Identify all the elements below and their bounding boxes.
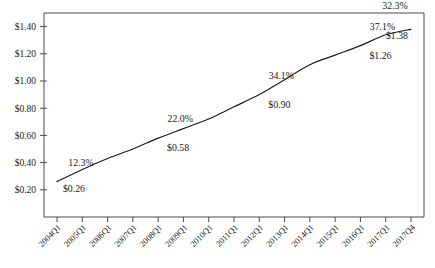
x-axis-tick-label: 2017Q1: [365, 222, 392, 249]
x-axis-tick-label: 2009Q1: [163, 222, 190, 249]
annotation-value: $0.26: [63, 183, 85, 194]
line-chart: $1.40$1.20$1.00$0.80$0.60$0.40$0.20 2004…: [0, 0, 435, 268]
x-axis-tick-label: 2011Q1: [213, 222, 239, 248]
y-axis-labels: $1.40$1.20$1.00$0.80$0.60$0.40$0.20: [15, 22, 37, 195]
series-group: [57, 29, 411, 181]
y-axis-tick-label: $1.20: [15, 49, 37, 59]
plot-frame: [44, 13, 424, 217]
x-axis-tick-label: 2008Q1: [137, 222, 164, 249]
annotation-value: $1.38: [386, 30, 408, 41]
x-axis-tick-label: 2005Q1: [62, 222, 89, 249]
x-axis-tick-label: 2017Q4: [390, 222, 417, 249]
annotation-percent: 32.3%: [382, 0, 407, 11]
y-axis-tick-label: $0.80: [15, 104, 37, 114]
annotation-value: $1.26: [369, 50, 391, 61]
series-line-value: [57, 29, 411, 181]
y-axis-tick-label: $1.40: [15, 22, 37, 32]
annotation-value: $0.58: [167, 142, 189, 153]
x-axis-labels: 2004Q12005Q12006Q12007Q12008Q12009Q12010…: [36, 222, 417, 249]
annotation-percent: 22.0%: [167, 113, 192, 124]
x-axis-tick-label: 2007Q1: [112, 222, 139, 249]
x-axis-tick-label: 2012Q1: [239, 222, 266, 249]
y-axis-tick-label: $0.60: [15, 131, 37, 141]
annotation-percent: 12.3%: [68, 157, 93, 168]
chart-canvas: $1.40$1.20$1.00$0.80$0.60$0.40$0.20 2004…: [0, 0, 435, 268]
x-axis-tick-label: 2016Q1: [340, 222, 367, 249]
x-axis-ticks: [57, 217, 411, 222]
x-axis-tick-label: 2004Q1: [36, 222, 63, 249]
x-axis-tick-label: 2006Q1: [87, 222, 114, 249]
y-axis-tick-label: $1.00: [15, 76, 37, 86]
data-annotations: 12.3%$0.2622.0%$0.5834.1%$0.9037.1%$1.26…: [63, 0, 408, 193]
annotation-value: $0.90: [268, 99, 290, 110]
x-axis-tick-label: 2013Q1: [264, 222, 291, 249]
x-axis-tick-label: 2014Q1: [289, 222, 316, 249]
annotation-percent: 34.1%: [269, 70, 294, 81]
y-axis-tick-label: $0.40: [15, 158, 37, 168]
x-axis-tick-label: 2015Q1: [314, 222, 341, 249]
y-axis-tick-label: $0.20: [15, 185, 37, 195]
x-axis-tick-label: 2010Q1: [188, 222, 215, 249]
